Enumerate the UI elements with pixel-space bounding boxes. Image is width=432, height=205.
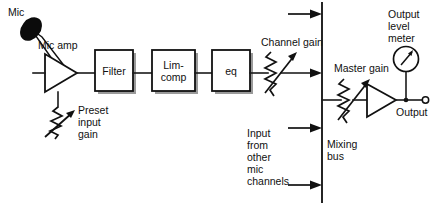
bus-input-label-line1: Input (247, 127, 270, 139)
channel-gain-arrow-shaft (265, 56, 294, 93)
output-level-meter-label-line1: Output (388, 8, 420, 20)
bus-arrow-bottom-head (310, 181, 322, 190)
bus-arrow-top-head (310, 10, 322, 19)
preset-input-gain-label-line2: input (78, 116, 101, 128)
output-amp-triangle (367, 84, 396, 117)
channel-gain-to-bus-arrow (280, 69, 322, 78)
master-gain-resistor-zigzag (338, 79, 349, 123)
master-gain-symbol (338, 79, 370, 123)
block-eq: eq (212, 50, 253, 94)
preset-input-gain-symbol (45, 107, 75, 139)
filter-label: Filter (102, 65, 126, 77)
output-terminal (422, 97, 428, 103)
output-amp-symbol (367, 84, 396, 117)
mixing-bus-label-line1: Mixing (327, 138, 358, 150)
output-level-meter-label-line3: meter (388, 32, 415, 44)
channel-gain-symbol (265, 52, 297, 96)
channel-gain-resistor-zigzag (265, 52, 276, 96)
mic-amp-symbol (45, 54, 77, 92)
block-lim-comp: Lim- comp (152, 50, 198, 94)
mic-amp-triangle (45, 54, 77, 92)
preset-gain-arrow-shaft (45, 113, 72, 137)
eq-label: eq (225, 65, 237, 77)
channel-bus-arrow-head (310, 69, 322, 78)
bus-input-label-line5: channels (247, 175, 289, 187)
mixing-bus-label-line2: bus (327, 150, 344, 162)
signal-flow-diagram: Mic Mic amp Preset input gain Filter (0, 0, 432, 205)
channel-gain-arrow-head (288, 52, 297, 61)
bus-arrow-mid-head (310, 124, 322, 133)
output-terminal-label: Output (396, 106, 428, 118)
lim-comp-label-line2: comp (161, 71, 187, 83)
master-gain-arrow-shaft (338, 83, 367, 120)
channel-gain-label: Channel gain (261, 36, 323, 48)
master-gain-label: Master gain (334, 62, 389, 74)
mic-amp-label: Mic amp (38, 39, 78, 51)
mic-label: Mic (8, 6, 24, 18)
schematic-canvas: Mic Mic amp Preset input gain Filter (0, 0, 432, 205)
bus-input-arrow-bottom (288, 181, 322, 190)
output-level-meter-label-line2: level (388, 20, 410, 32)
bus-input-label-line3: other (247, 151, 271, 163)
block-filter: Filter (95, 50, 136, 94)
bus-input-arrow-mid (288, 124, 322, 133)
output-level-meter-symbol (394, 47, 419, 72)
lim-comp-label-line1: Lim- (163, 59, 184, 71)
bus-input-arrow-top (288, 10, 322, 19)
bus-input-label-line4: mic (247, 163, 263, 175)
preset-input-gain-label-line1: Preset (78, 104, 108, 116)
bus-input-label-line2: from (247, 139, 268, 151)
preset-input-gain-label-line3: gain (78, 128, 98, 140)
